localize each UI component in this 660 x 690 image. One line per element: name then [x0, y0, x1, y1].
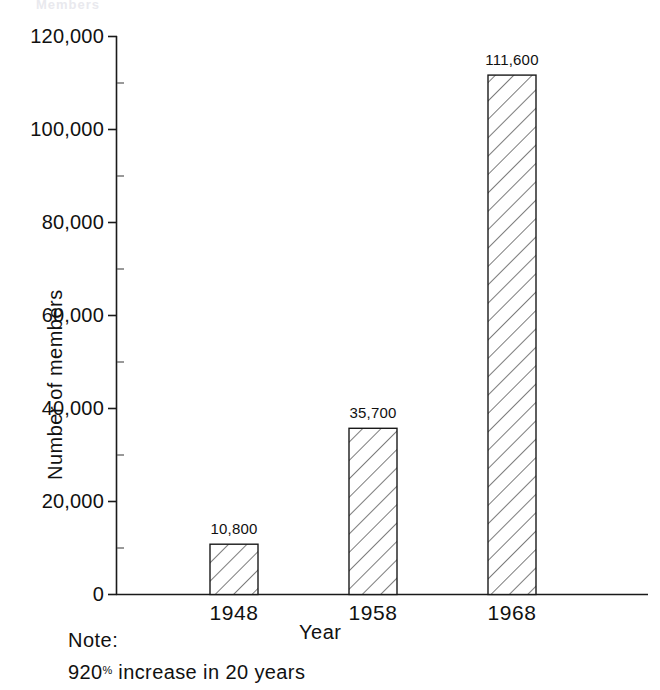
x-axis-title: Year: [299, 621, 341, 644]
y-minor-ticks: [117, 83, 124, 548]
x-tick-label-1968: 1968: [462, 601, 562, 625]
y-tick-label-20000: 20,000: [0, 490, 104, 513]
bar-1958: [349, 428, 397, 594]
note-rest-text: increase in 20 years: [112, 661, 305, 683]
note-label: Note:: [68, 629, 118, 652]
y-tick-label-100000: 100,000: [0, 118, 104, 141]
bar-1968: [488, 75, 536, 594]
x-tick-label-1948: 1948: [184, 601, 284, 625]
note-text: 920% increase in 20 years: [68, 661, 305, 684]
bar-value-label-1968: 111,600: [462, 51, 562, 68]
y-major-ticks: [108, 37, 117, 595]
bar-1948: [210, 544, 258, 594]
y-tick-label-0: 0: [0, 583, 104, 606]
bar-chart-figure: Members: [0, 0, 660, 690]
note-percent-value: 920: [68, 661, 103, 683]
y-tick-label-120000: 120,000: [0, 25, 104, 48]
note-percent-sign: %: [103, 664, 113, 676]
y-axis-title: Number of members: [44, 289, 67, 480]
bar-value-label-1948: 10,800: [184, 520, 284, 537]
bar-value-label-1958: 35,700: [323, 404, 423, 421]
y-tick-label-80000: 80,000: [0, 211, 104, 234]
